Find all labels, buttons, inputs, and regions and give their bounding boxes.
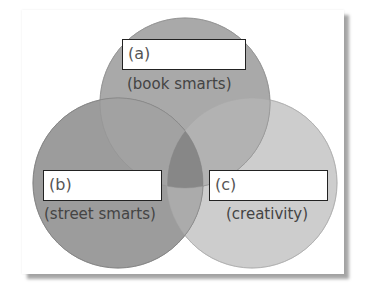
answer-box-c[interactable]: (c) — [209, 170, 328, 201]
box-label-a: (a) — [128, 44, 150, 63]
caption-creativity: (creativity) — [226, 205, 308, 223]
box-label-b: (b) — [49, 175, 72, 194]
box-label-c: (c) — [215, 175, 236, 194]
caption-street-smarts: (street smarts) — [44, 205, 156, 223]
caption-book-smarts: (book smarts) — [127, 75, 232, 93]
answer-box-a[interactable]: (a) — [122, 39, 246, 70]
answer-box-b[interactable]: (b) — [43, 170, 162, 201]
